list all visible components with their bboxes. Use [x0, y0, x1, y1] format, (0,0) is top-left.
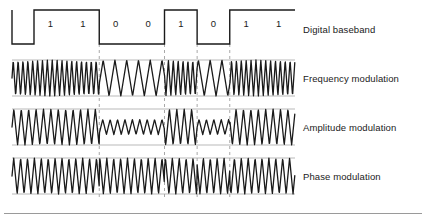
bit-label-2: 0 [109, 18, 123, 29]
bit-label-4: 1 [174, 18, 188, 29]
modulation-figure: Digital baseband Frequency modulation Am… [0, 0, 426, 219]
bit-label-5: 0 [206, 18, 220, 29]
row-label-digital-baseband: Digital baseband [303, 24, 375, 35]
row-label-amplitude-modulation: Amplitude modulation [303, 122, 396, 133]
row-label-phase-modulation: Phase modulation [303, 171, 381, 182]
bit-label-6: 1 [239, 18, 253, 29]
phase-modulation-waveform [12, 158, 295, 194]
bit-label-1: 1 [76, 18, 90, 29]
bit-label-0: 1 [43, 18, 57, 29]
row-label-frequency-modulation: Frequency modulation [303, 73, 399, 84]
amplitude-modulation-waveform [12, 109, 295, 145]
bit-label-3: 0 [141, 18, 155, 29]
bit-label-7: 1 [272, 18, 286, 29]
frequency-modulation-waveform [12, 60, 295, 96]
